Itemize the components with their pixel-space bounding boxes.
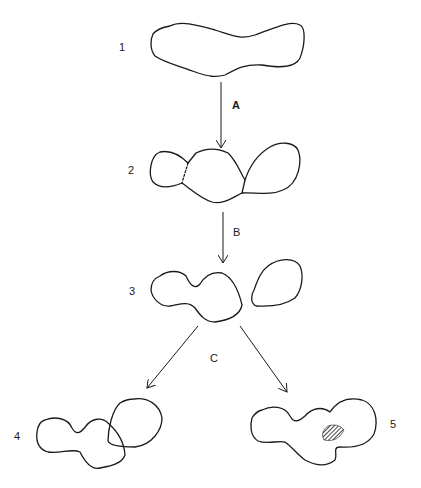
stage-label-5: 5: [390, 418, 396, 430]
stage-2-shape: [150, 143, 299, 203]
stage-5-shape: [251, 399, 376, 465]
transition-label-a: A: [232, 99, 240, 111]
stage-4-shape: [37, 399, 162, 469]
stage-label-4: 4: [14, 430, 20, 442]
transition-label-c: C: [210, 352, 218, 364]
transition-label-b: B: [233, 226, 240, 238]
stage-label-3: 3: [129, 285, 135, 297]
arrow-c-right: [240, 326, 287, 392]
stage-label-1: 1: [119, 41, 125, 53]
arrow-c-left: [147, 326, 198, 388]
stage-3-left-shape: [151, 272, 242, 323]
hatched-contact-region: [323, 425, 344, 440]
stage-label-2: 2: [128, 164, 134, 176]
diagram-canvas: [0, 0, 421, 488]
stage-3-right-shape: [252, 260, 302, 307]
stage-1-shape: [151, 23, 304, 76]
